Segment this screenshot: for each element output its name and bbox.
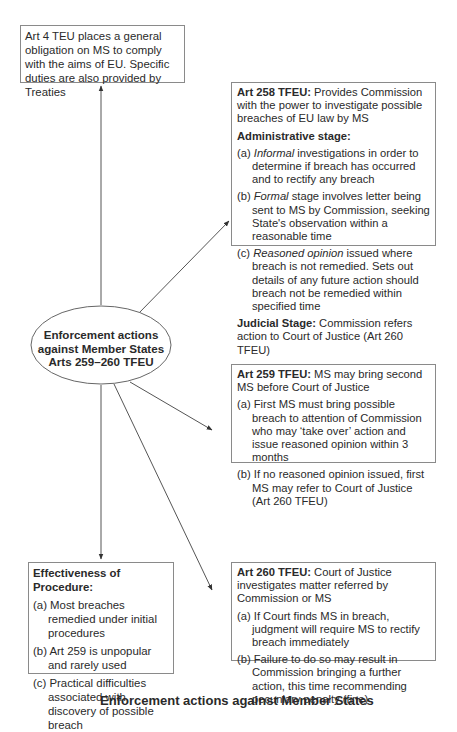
art259-item-a: (a) First MS must bring possible breach … bbox=[237, 398, 430, 464]
effectiveness-item-b: (b) Art 259 is unpopular and rarely used bbox=[33, 644, 169, 672]
admin-stage-heading: Administrative stage: bbox=[237, 130, 430, 143]
art259-tfeu-box: Art 259 TFEU: MS may bring second MS bef… bbox=[231, 364, 436, 463]
judicial-stage: Judicial Stage: Commission refers action… bbox=[237, 317, 430, 357]
art258-title: Art 258 TFEU: bbox=[237, 86, 311, 98]
effectiveness-title: Effectiveness of Procedure: bbox=[33, 566, 169, 594]
art258-item-b: (b) Formal stage involves letter being s… bbox=[237, 190, 430, 243]
art260-item-a: (a) If Court finds MS in breach, judgmen… bbox=[237, 610, 430, 650]
arrow-to-art260 bbox=[114, 384, 212, 590]
center-node-line-1: Enforcement actions bbox=[30, 328, 172, 342]
arrow-to-art258 bbox=[138, 221, 229, 314]
judicial-stage-heading: Judicial Stage: bbox=[237, 317, 316, 329]
art4-teu-box: Art 4 TEU places a general obligation on… bbox=[20, 25, 185, 83]
effectiveness-box: Effectiveness of Procedure: (a) Most bre… bbox=[28, 562, 174, 674]
center-node-line-3: Arts 259–260 TFEU bbox=[30, 355, 172, 369]
center-node-label: Enforcement actions against Member State… bbox=[30, 328, 172, 369]
art260-tfeu-box: Art 260 TFEU: Court of Justice investiga… bbox=[231, 562, 436, 661]
center-node-line-2: against Member States bbox=[30, 342, 172, 356]
art4-text: Art 4 TEU places a general obligation on… bbox=[25, 29, 180, 99]
art260-title: Art 260 TFEU: bbox=[237, 566, 311, 578]
effectiveness-item-a: (a) Most breaches remedied under initial… bbox=[33, 598, 169, 640]
art259-title: Art 259 TFEU: bbox=[237, 368, 311, 380]
arrow-to-art259 bbox=[130, 382, 212, 430]
figure-caption: Enforcement actions against Member State… bbox=[100, 693, 374, 708]
art258-item-c: (c) Reasoned opinion issued where breach… bbox=[237, 247, 430, 313]
art259-intro: Art 259 TFEU: MS may bring second MS bef… bbox=[237, 368, 430, 394]
art259-item-b: (b) If no reasoned opinion issued, first… bbox=[237, 468, 430, 508]
art258-intro: Art 258 TFEU: Provides Commission with t… bbox=[237, 86, 430, 126]
art260-intro: Art 260 TFEU: Court of Justice investiga… bbox=[237, 566, 430, 606]
art258-tfeu-box: Art 258 TFEU: Provides Commission with t… bbox=[231, 82, 436, 246]
art258-item-a: (a) Informal investigations in order to … bbox=[237, 147, 430, 187]
